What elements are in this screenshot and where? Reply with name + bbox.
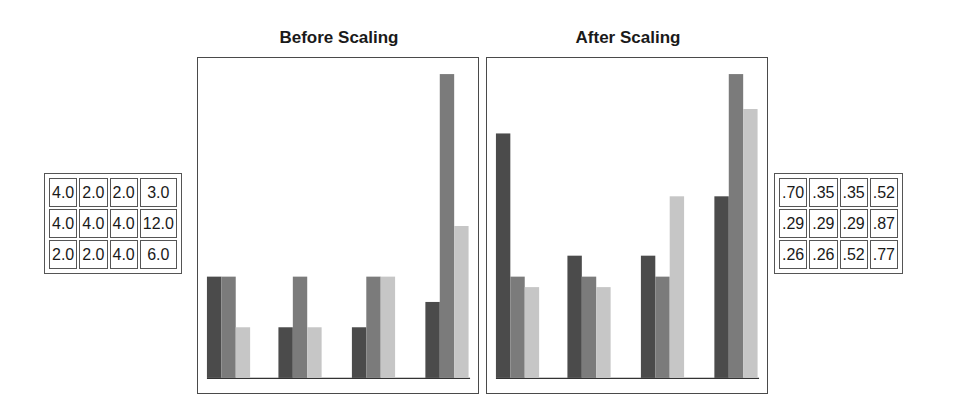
bar-row-3-column-1 [525,287,539,378]
bar-row-3-column-4 [743,109,757,378]
bar-row-1-column-1 [207,277,221,378]
scaled-matrix-cell: .29 [779,209,807,238]
scaled-matrix-cell: .29 [840,209,868,238]
bar-row-2-column-2 [293,277,307,378]
scaled-matrix-cell: .29 [809,209,837,238]
bar-row-3-column-2 [596,287,610,378]
scaled-matrix-cell: .52 [870,178,898,207]
input-matrix-cell: 2.0 [79,178,107,207]
after-scaling-title: After Scaling [486,28,770,48]
input-matrix-cell: 3.0 [140,178,177,207]
scaled-matrix-cell: .35 [840,178,868,207]
bar-row-3-column-4 [454,226,468,378]
scaled-matrix-row: .26.26.52.77 [779,240,898,269]
input-matrix-cell: 2.0 [79,240,107,269]
bar-row-2-column-4 [440,74,454,378]
bar-row-2-column-4 [729,74,743,378]
bar-row-3-column-2 [307,327,321,378]
bar-row-1-column-3 [641,256,655,378]
bar-row-3-column-3 [381,277,395,378]
input-matrix-cell: 12.0 [140,209,177,238]
before-scaling-chart [197,57,479,394]
bar-row-1-column-4 [425,302,439,378]
bar-row-2-column-1 [510,277,524,378]
scaled-matrix-cell: .87 [870,209,898,238]
input-matrix-cell: 4.0 [79,209,107,238]
input-matrix-cell: 4.0 [110,209,138,238]
input-matrix-row: 2.02.04.06.0 [49,240,177,269]
scaled-matrix-cell: .70 [779,178,807,207]
scaled-matrix: .70.35.35.52.29.29.29.87.26.26.52.77 [774,173,903,274]
scaled-matrix-table: .70.35.35.52.29.29.29.87.26.26.52.77 [777,176,900,271]
input-matrix-cell: 4.0 [110,240,138,269]
after-scaling-plot [487,58,767,393]
before-scaling-title: Before Scaling [197,28,481,48]
input-matrix-cell: 2.0 [49,240,77,269]
bar-row-1-column-2 [278,327,292,378]
scaled-matrix-row: .29.29.29.87 [779,209,898,238]
bar-row-2-column-3 [655,277,669,378]
scaled-matrix-cell: .26 [809,240,837,269]
bar-row-1-column-2 [567,256,581,378]
bar-row-3-column-1 [236,327,250,378]
bar-row-1-column-1 [496,133,510,377]
before-scaling-plot [198,58,478,393]
scaled-matrix-cell: .77 [870,240,898,269]
input-matrix-row: 4.04.04.012.0 [49,209,177,238]
input-matrix-cell: 4.0 [49,178,77,207]
input-matrix-cell: 4.0 [49,209,77,238]
bar-row-2-column-1 [221,277,235,378]
bar-row-2-column-3 [366,277,380,378]
input-matrix-row: 4.02.02.03.0 [49,178,177,207]
input-matrix-cell: 2.0 [110,178,138,207]
after-scaling-chart [486,57,768,394]
input-matrix-cell: 6.0 [140,240,177,269]
bar-row-3-column-3 [670,196,684,378]
bar-row-2-column-2 [582,277,596,378]
scaled-matrix-row: .70.35.35.52 [779,178,898,207]
bar-row-1-column-4 [714,196,728,378]
scaled-matrix-cell: .52 [840,240,868,269]
input-matrix-table: 4.02.02.03.04.04.04.012.02.02.04.06.0 [47,176,179,271]
bar-row-1-column-3 [352,327,366,378]
scaled-matrix-cell: .26 [779,240,807,269]
input-matrix: 4.02.02.03.04.04.04.012.02.02.04.06.0 [44,173,182,274]
scaled-matrix-cell: .35 [809,178,837,207]
